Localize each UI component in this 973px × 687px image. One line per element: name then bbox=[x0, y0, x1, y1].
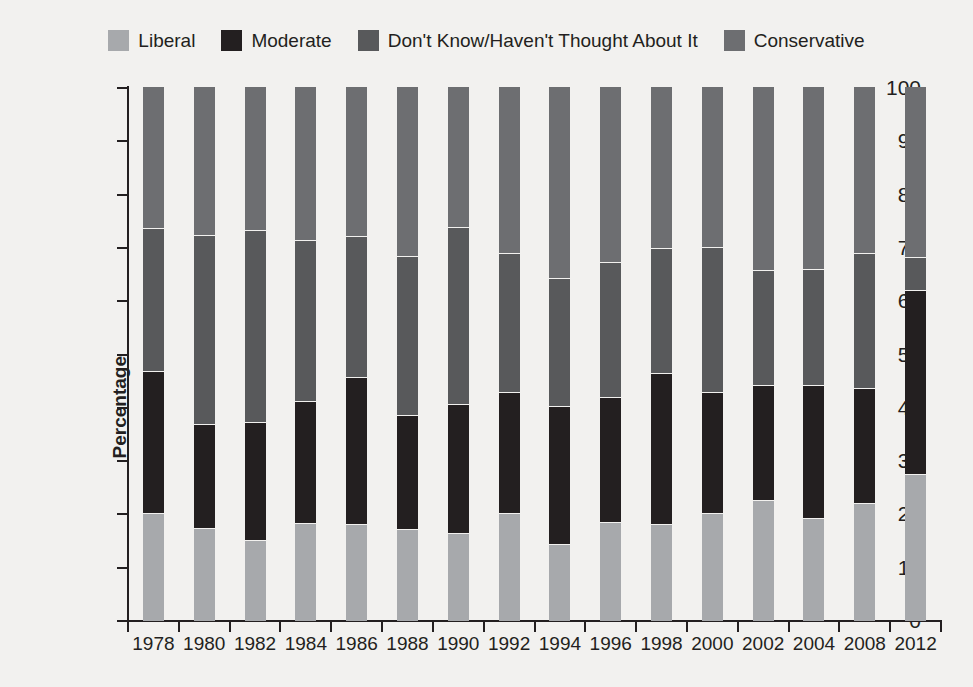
bar-segment[interactable] bbox=[448, 227, 469, 405]
bar-segment[interactable] bbox=[194, 235, 215, 425]
bar-segment[interactable] bbox=[600, 262, 621, 398]
bar-segment[interactable] bbox=[803, 386, 824, 519]
bar-segment[interactable] bbox=[905, 290, 926, 475]
bar-segment[interactable] bbox=[499, 392, 520, 514]
bar-segment[interactable] bbox=[549, 406, 570, 545]
y-axis-tick bbox=[117, 460, 128, 462]
bar-segment[interactable] bbox=[295, 401, 316, 524]
bar-segment[interactable] bbox=[549, 87, 570, 279]
bar-segment[interactable] bbox=[905, 475, 926, 621]
chart-legend: LiberalModerateDon't Know/Haven't Though… bbox=[0, 30, 973, 51]
bar-segment[interactable] bbox=[854, 388, 875, 504]
bar-segment[interactable] bbox=[702, 247, 723, 392]
bar-segment[interactable] bbox=[600, 397, 621, 524]
bar-segment[interactable] bbox=[346, 525, 367, 621]
x-axis-tick-label: 2002 bbox=[742, 633, 784, 655]
bar-stack[interactable] bbox=[803, 88, 824, 621]
bar-stack[interactable] bbox=[346, 88, 367, 621]
bar-segment[interactable] bbox=[854, 504, 875, 621]
bar-segment[interactable] bbox=[499, 253, 520, 393]
legend-swatch-icon bbox=[221, 30, 242, 51]
bar-segment[interactable] bbox=[397, 415, 418, 531]
bar-segment[interactable] bbox=[194, 424, 215, 529]
x-axis-tick bbox=[381, 621, 383, 632]
bar-segment[interactable] bbox=[143, 514, 164, 621]
bar-segment[interactable] bbox=[397, 87, 418, 257]
bar-segment[interactable] bbox=[194, 529, 215, 621]
bar-segment[interactable] bbox=[499, 87, 520, 254]
bar-segment[interactable] bbox=[753, 270, 774, 387]
bar-segment[interactable] bbox=[143, 371, 164, 514]
bar-segment[interactable] bbox=[905, 87, 926, 257]
bar-segment[interactable] bbox=[600, 87, 621, 263]
bar-segment[interactable] bbox=[448, 534, 469, 621]
bar-segment[interactable] bbox=[905, 257, 926, 292]
bar-stack[interactable] bbox=[854, 88, 875, 621]
bar-segment[interactable] bbox=[194, 87, 215, 236]
bar-segment[interactable] bbox=[702, 392, 723, 515]
bar-segment[interactable] bbox=[448, 404, 469, 534]
bar-segment[interactable] bbox=[854, 253, 875, 389]
bar-stack[interactable] bbox=[600, 88, 621, 621]
x-axis-tick-label: 1978 bbox=[132, 633, 174, 655]
x-axis-tick-label: 2004 bbox=[793, 633, 835, 655]
bar-segment[interactable] bbox=[346, 236, 367, 378]
bar-segment[interactable] bbox=[651, 525, 672, 621]
bar-stack[interactable] bbox=[143, 88, 164, 621]
bar-segment[interactable] bbox=[245, 230, 266, 423]
bar-segment[interactable] bbox=[753, 87, 774, 271]
bar-segment[interactable] bbox=[295, 524, 316, 621]
bar-segment[interactable] bbox=[397, 256, 418, 416]
legend-swatch-icon bbox=[108, 30, 129, 51]
bar-segment[interactable] bbox=[549, 278, 570, 406]
bar-segment[interactable] bbox=[651, 248, 672, 374]
legend-label: Conservative bbox=[754, 31, 865, 50]
bar-stack[interactable] bbox=[499, 88, 520, 621]
bar-segment[interactable] bbox=[803, 519, 824, 621]
bar-stack[interactable] bbox=[702, 88, 723, 621]
x-axis-tick-label: 1984 bbox=[285, 633, 327, 655]
x-axis-tick bbox=[788, 621, 790, 632]
x-axis-tick-label: 1990 bbox=[437, 633, 479, 655]
y-axis-tick bbox=[117, 140, 128, 142]
bar-segment[interactable] bbox=[245, 541, 266, 621]
x-axis-tick-label: 1980 bbox=[183, 633, 225, 655]
x-axis-tick bbox=[279, 621, 281, 632]
bar-segment[interactable] bbox=[346, 87, 367, 237]
bar-segment[interactable] bbox=[600, 523, 621, 621]
bar-segment[interactable] bbox=[549, 545, 570, 621]
bar-segment[interactable] bbox=[143, 87, 164, 229]
bar-segment[interactable] bbox=[143, 228, 164, 372]
bar-segment[interactable] bbox=[499, 514, 520, 621]
bar-segment[interactable] bbox=[448, 87, 469, 228]
bar-segment[interactable] bbox=[651, 373, 672, 525]
bar-segment[interactable] bbox=[346, 377, 367, 525]
bar-stack[interactable] bbox=[905, 88, 926, 621]
bar-segment[interactable] bbox=[753, 501, 774, 621]
legend-label: Liberal bbox=[138, 31, 195, 50]
bar-segment[interactable] bbox=[295, 87, 316, 241]
x-axis-tick bbox=[584, 621, 586, 632]
bar-stack[interactable] bbox=[397, 88, 418, 621]
y-axis-tick bbox=[117, 407, 128, 409]
bar-segment[interactable] bbox=[854, 87, 875, 254]
bar-segment[interactable] bbox=[295, 240, 316, 402]
bar-segment[interactable] bbox=[702, 87, 723, 248]
bar-stack[interactable] bbox=[194, 88, 215, 621]
bar-segment[interactable] bbox=[803, 269, 824, 386]
bar-stack[interactable] bbox=[448, 88, 469, 621]
bar-stack[interactable] bbox=[753, 88, 774, 621]
bar-stack[interactable] bbox=[651, 88, 672, 621]
bar-segment[interactable] bbox=[245, 422, 266, 541]
bar-segment[interactable] bbox=[245, 87, 266, 231]
x-axis-tick-label: 1986 bbox=[336, 633, 378, 655]
bar-segment[interactable] bbox=[753, 386, 774, 501]
bar-stack[interactable] bbox=[245, 88, 266, 621]
x-axis-tick bbox=[330, 621, 332, 632]
bar-stack[interactable] bbox=[549, 88, 570, 621]
bar-segment[interactable] bbox=[651, 87, 672, 249]
bar-segment[interactable] bbox=[803, 87, 824, 270]
bar-stack[interactable] bbox=[295, 88, 316, 621]
bar-segment[interactable] bbox=[397, 530, 418, 621]
bar-segment[interactable] bbox=[702, 514, 723, 621]
